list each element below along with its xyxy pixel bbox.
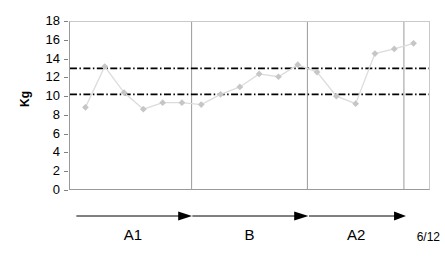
data-point-marker — [82, 104, 89, 111]
y-tick-label: 8 — [34, 108, 60, 121]
y-tick-mark — [64, 171, 68, 172]
phase-label: B — [190, 226, 308, 243]
data-point-marker — [410, 40, 417, 47]
phase-label: A1 — [74, 226, 192, 243]
y-tick-mark — [64, 190, 68, 191]
y-tick-label: 14 — [34, 52, 60, 65]
y-tick-mark — [64, 115, 68, 116]
data-point-marker — [275, 73, 282, 80]
y-tick-label: 6 — [34, 127, 60, 140]
data-point-marker — [391, 46, 398, 53]
y-tick-mark — [64, 40, 68, 41]
y-tick-label: 12 — [34, 70, 60, 83]
phase-block: A2 — [307, 190, 406, 267]
y-tick-mark — [64, 152, 68, 153]
y-tick-mark — [64, 77, 68, 78]
phase-separator-lines — [192, 22, 404, 189]
y-tick-mark — [64, 96, 68, 97]
data-point-marker — [179, 99, 186, 106]
y-tick-label: 10 — [34, 89, 60, 102]
y-tick-mark — [64, 59, 68, 60]
y-tick-mark — [64, 21, 68, 22]
y-tick-label: 16 — [34, 33, 60, 46]
data-point-marker — [352, 100, 359, 107]
phase-arrow-icon — [74, 208, 192, 220]
data-point-marker — [217, 91, 224, 98]
y-tick-label: 0 — [34, 183, 60, 196]
phase-label: A2 — [307, 226, 406, 243]
y-axis-title: Kg — [18, 82, 32, 116]
plot-svg — [70, 22, 429, 189]
plot-area — [69, 21, 430, 190]
y-tick-label: 2 — [34, 164, 60, 177]
chart-container: Kg 181614121086420 6/12 A1BA2 — [0, 0, 445, 267]
data-point-marker — [159, 99, 166, 106]
y-axis-tick-labels: 181614121086420 — [34, 0, 60, 267]
phase-arrow-icon — [307, 208, 406, 220]
phase-block: B — [190, 190, 308, 267]
date-label: 6/12 — [401, 230, 445, 244]
data-point-marker — [372, 50, 379, 57]
data-point-marker — [198, 101, 205, 108]
data-point-marker — [294, 61, 301, 68]
y-tick-mark — [64, 134, 68, 135]
phase-block: A1 — [74, 190, 192, 267]
y-tick-label: 18 — [34, 14, 60, 27]
data-line — [85, 43, 413, 109]
phase-arrow-icon — [190, 208, 308, 220]
y-tick-label: 4 — [34, 145, 60, 158]
phase-annotations: 6/12 A1BA2 — [69, 190, 445, 267]
series-line-weight — [85, 43, 413, 109]
